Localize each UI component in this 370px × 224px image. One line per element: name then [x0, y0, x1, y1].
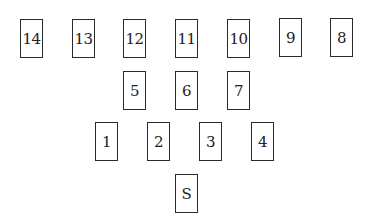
card-label: 4: [258, 133, 267, 151]
card-label: S: [182, 185, 192, 203]
card-label: 7: [234, 82, 243, 100]
card-label: 6: [182, 82, 191, 100]
card-label: 11: [177, 30, 195, 48]
card-6: 6: [175, 71, 198, 110]
card-label: 13: [74, 30, 92, 48]
card-label: 8: [337, 29, 346, 47]
card-label: 14: [22, 30, 40, 48]
card-3: 3: [199, 122, 222, 161]
card-label: 3: [206, 133, 215, 151]
card-13: 13: [72, 19, 95, 58]
card-5: 5: [123, 71, 146, 110]
card-label: 10: [229, 30, 247, 48]
card-label: 9: [286, 29, 295, 47]
card-label: 1: [102, 133, 111, 151]
card-1: 1: [95, 122, 118, 161]
card-s: S: [175, 174, 198, 213]
card-label: 2: [154, 133, 163, 151]
card-2: 2: [147, 122, 170, 161]
card-4: 4: [251, 122, 274, 161]
card-9: 9: [279, 18, 302, 57]
card-8: 8: [330, 18, 353, 57]
card-label: 5: [130, 82, 139, 100]
card-11: 11: [175, 19, 198, 58]
card-12: 12: [123, 19, 146, 58]
card-7: 7: [227, 71, 250, 110]
card-10: 10: [227, 19, 250, 58]
card-label: 12: [125, 30, 143, 48]
card-14: 14: [20, 19, 43, 58]
